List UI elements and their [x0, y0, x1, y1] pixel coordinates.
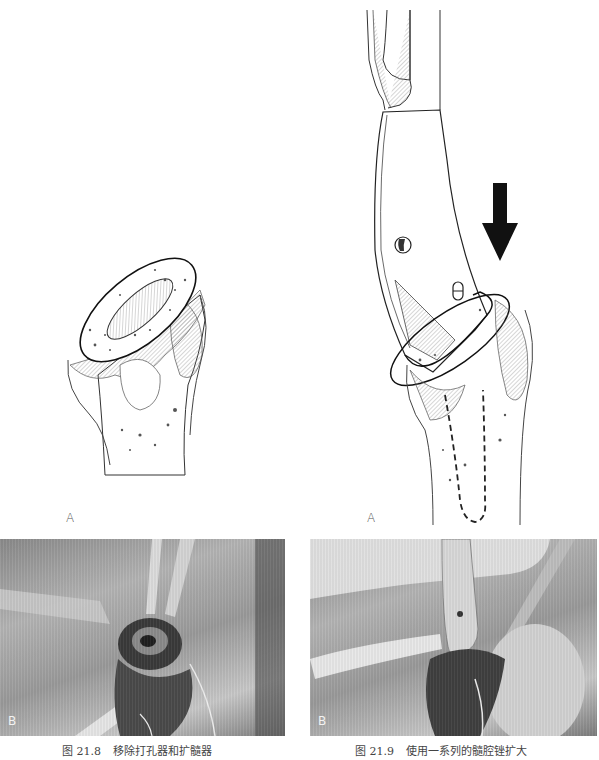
figure-21-9: A B 图 21.9使用一系列的髓腔锉扩大 [0, 0, 599, 760]
caption-number: 图 21.9 [355, 745, 394, 758]
figure-caption: 图 21.9使用一系列的髓腔锉扩大 [355, 742, 527, 758]
caption-text: 使用一系列的髓腔锉扩大 [406, 745, 527, 758]
broach-illustration [355, 0, 565, 530]
surgical-photo: B [310, 539, 597, 736]
panel-label-a: A [367, 511, 375, 525]
panel-label-b: B [8, 714, 16, 728]
down-arrow-icon [480, 183, 520, 263]
panel-label-b: B [318, 714, 326, 728]
